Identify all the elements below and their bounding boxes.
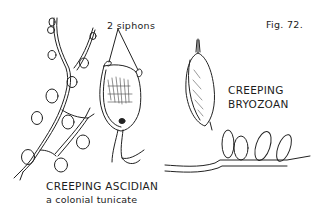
ascidian-zooid-drawing <box>100 29 144 164</box>
bryozoan-stolon-drawing <box>165 130 310 173</box>
bryozoan-title-line1: CREEPING <box>228 84 284 96</box>
figure-number: Fig. 72. <box>266 19 303 30</box>
ascidian-title: CREEPING ASCIDIAN <box>46 180 158 192</box>
bryozoan-title-line2: BRYOZOAN <box>228 98 289 110</box>
bryozoan-zooid-drawing <box>186 39 215 130</box>
ascidian-colony-drawing <box>14 18 96 180</box>
figure-canvas: Fig. 72. 2 siphons CREEPING BRYOZOAN CRE… <box>0 0 329 206</box>
ascidian-subtitle: a colonial tunicate <box>46 194 137 205</box>
siphons-callout-label: 2 siphons <box>107 20 155 31</box>
